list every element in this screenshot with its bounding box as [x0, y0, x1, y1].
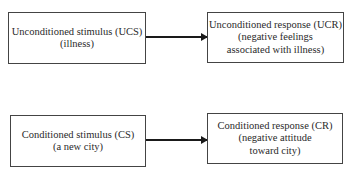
cs-to-cr-arrow	[146, 139, 207, 141]
cr-box: Conditioned response (CR) (negative atti…	[207, 113, 343, 164]
ucs-box: Unconditioned stimulus (UCS) (illness)	[8, 12, 146, 64]
cr-title: Conditioned response (CR)	[218, 120, 333, 133]
cr-detail-line-2: toward city)	[249, 145, 300, 158]
cs-title: Conditioned stimulus (CS)	[22, 129, 135, 142]
cr-detail-line-1: (negative attitude	[238, 132, 311, 145]
ucs-title: Unconditioned stimulus (UCS)	[12, 26, 143, 39]
ucs-to-ucr-arrow	[146, 36, 207, 38]
ucr-title: Unconditioned response (UCR)	[209, 19, 342, 32]
ucs-detail: (illness)	[60, 38, 94, 51]
cs-detail: (a new city)	[53, 141, 103, 154]
ucr-box: Unconditioned response (UCR) (negative f…	[207, 12, 344, 63]
cs-box: Conditioned stimulus (CS) (a new city)	[10, 115, 146, 167]
ucr-detail-line-1: (negative feelings	[238, 31, 313, 44]
ucr-detail-line-2: associated with illness)	[227, 44, 324, 57]
